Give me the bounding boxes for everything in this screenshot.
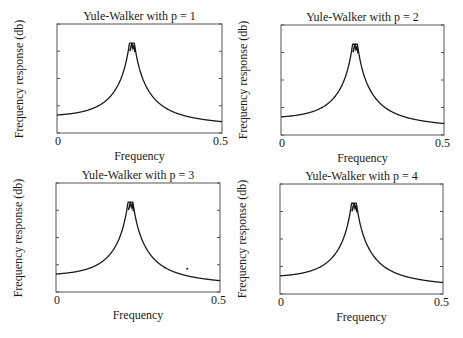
x-tick-label: 0.5: [434, 295, 449, 310]
y-axis-label: Frequency response (db): [235, 169, 249, 309]
x-tick-label: 0: [278, 295, 284, 310]
axes-box: [280, 184, 443, 294]
subplot-title: Yule-Walker with p = 4: [280, 169, 443, 184]
response-curve: [280, 203, 443, 282]
x-axis-label: Frequency: [280, 310, 443, 325]
peak-tip: [352, 203, 357, 212]
